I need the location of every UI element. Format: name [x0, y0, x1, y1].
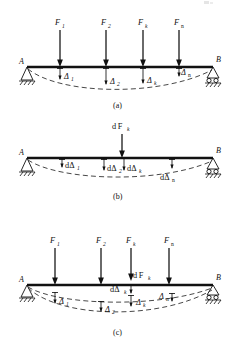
force-sub-c-2: 2: [103, 241, 106, 247]
force-label-b-dk: d F: [112, 122, 123, 131]
force-arrow-a-1: [57, 30, 63, 67]
force-sub-a-n: n: [181, 23, 184, 29]
deflection-dim-a-k: [140, 68, 146, 84]
force-label-a-k: F: [137, 18, 144, 27]
support-pin-b: [19, 158, 35, 176]
deflection-sub-b-1: 1: [77, 165, 80, 171]
deflection-sub-b-k: k: [139, 168, 142, 174]
force-sub-a-k: k: [145, 23, 148, 29]
support-roller-c: [205, 285, 221, 304]
support-pin-c: [19, 285, 35, 302]
force-arrow-a-k: [140, 30, 146, 67]
deflection-sub-c-n: n: [166, 296, 169, 302]
support-label-c-right: B: [216, 273, 221, 282]
deflection-label-a-k: Δ: [146, 76, 152, 85]
deflection-label-b-n: dΔ: [160, 173, 170, 182]
support-pin-a: [19, 67, 35, 85]
force-sub-a-2: 2: [108, 23, 111, 29]
increment-deflection-sub-c: k: [124, 289, 127, 295]
deflection-label-b-k: dΔ: [127, 164, 137, 173]
force-sub-a-1: 1: [62, 23, 65, 29]
force-label-c-2: F: [95, 236, 102, 245]
force-label-a-1: F: [54, 18, 61, 27]
force-arrow-a-n: [176, 30, 182, 67]
deflection-label-c-n: Δ: [158, 292, 164, 301]
increment-deflection-label-c: dΔ: [110, 285, 120, 294]
deflection-label-c-k: Δ: [135, 298, 141, 307]
increment-force-sub-c: k: [148, 275, 151, 281]
force-label-a-2: F: [100, 18, 107, 27]
force-sub-c-n: n: [171, 241, 174, 247]
deflection-dim-b-n: [169, 159, 175, 169]
deflection-sub-c-1: 1: [66, 301, 69, 307]
force-sub-b-dk: k: [127, 126, 130, 132]
panel-a: A B F 1 F 2 F: [18, 18, 221, 110]
deflection-label-b-1: dΔ: [65, 161, 75, 170]
deflection-sub-b-2: 2: [119, 168, 122, 174]
force-label-c-1: F: [49, 236, 56, 245]
force-arrow-c-n: [166, 248, 172, 285]
scan-artifact: [204, 1, 213, 4]
deflection-label-c-1: Δ: [58, 297, 64, 306]
deflection-dim-a-2: [103, 68, 109, 85]
force-arrow-c-1: [52, 248, 58, 285]
deflection-dim-b-k: [122, 159, 125, 171]
support-label-a-left: A: [18, 57, 24, 66]
deflection-dim-c-2: [98, 301, 104, 312]
deflection-sub-a-1: 1: [71, 76, 74, 82]
deflection-label-b-2: dΔ: [107, 164, 117, 173]
deflection-sub-b-n: n: [172, 177, 175, 183]
force-label-c-n: F: [163, 236, 170, 245]
panel-caption-a: (a): [113, 101, 122, 110]
deflection-sub-a-k: k: [154, 80, 157, 86]
beam-deflection-figure: A B F 1 F 2 F: [0, 0, 239, 347]
panel-c: A B F 1 F 2 F: [18, 236, 221, 337]
force-sub-c-1: 1: [57, 241, 60, 247]
deflection-sub-c-k: k: [143, 302, 146, 308]
deflection-label-a-2: Δ: [109, 77, 115, 86]
increment-deflection-dim-c: [129, 286, 132, 294]
support-roller-b: [205, 158, 221, 178]
support-label-a-right: B: [216, 55, 221, 64]
deflection-sub-a-n: n: [188, 72, 191, 78]
force-arrow-a-2: [103, 30, 109, 67]
support-roller-a: [205, 67, 221, 87]
force-sub-c-k: k: [133, 241, 136, 247]
support-label-b-left: A: [18, 148, 24, 157]
figure-canvas: A B F 1 F 2 F: [0, 0, 239, 347]
panel-b: A B d F k dΔ 1: [18, 122, 221, 201]
deflection-sub-a-2: 2: [117, 81, 120, 87]
force-arrow-c-2: [98, 248, 104, 285]
force-label-a-n: F: [173, 18, 180, 27]
deflection-sub-c-2: 2: [112, 309, 115, 315]
force-arrow-b-dk: [119, 134, 125, 158]
force-label-c-k: F: [125, 236, 132, 245]
panel-caption-b: (b): [113, 192, 123, 201]
deflection-label-a-1: Δ: [63, 72, 69, 81]
deflection-dim-a-1: [57, 68, 63, 80]
deflection-label-c-2: Δ: [104, 305, 110, 314]
deflection-label-a-n: Δ: [180, 68, 186, 77]
increment-force-label-c: d F: [133, 271, 144, 280]
deflection-dim-c-k: [128, 295, 134, 307]
support-label-b-right: B: [216, 146, 221, 155]
panel-caption-c: (c): [113, 328, 122, 337]
support-label-c-left: A: [18, 275, 24, 284]
